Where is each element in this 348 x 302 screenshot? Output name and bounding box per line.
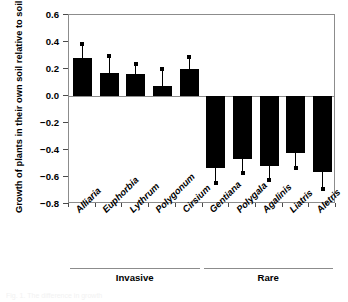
error-bar-cap [134,62,138,66]
error-bar-cap [294,166,298,170]
figure-panel: Growth of plants in their own soil relat… [0,0,348,302]
error-bar-cap [187,55,191,59]
error-bar-cap [107,54,111,58]
y-axis-tick-label: 0.2 [29,63,59,74]
bar [126,74,145,96]
error-bar-cap [267,178,271,182]
x-axis-category-labels: AlliariaEuphorbiaLythrumPolygonumCirsium… [0,203,348,263]
plot-area [68,14,335,203]
error-bar-cap [321,187,325,191]
bar [233,96,252,159]
group-bracket-line [70,268,200,269]
bar [73,58,92,96]
bar [153,86,172,96]
bar-series [69,15,334,202]
error-bar-cap [80,42,84,46]
group-label: Invasive [70,272,200,283]
group-bracket-line [204,268,334,269]
error-bar-cap [241,171,245,175]
group-label: Rare [204,272,334,283]
error-bar-cap [160,67,164,71]
bar [286,96,305,153]
bar [260,96,279,166]
y-axis-tick-label: 0.0 [29,90,59,101]
error-bar-cap [214,181,218,185]
error-bar-line [109,56,110,74]
bar [206,96,225,168]
error-bar-line [82,44,83,58]
y-axis-tick-label: −0.4 [29,144,59,155]
bar [100,73,119,96]
bar [180,69,199,96]
y-axis-tick-label: 0.6 [29,9,59,20]
caption-sliver: Fig. 1. The difference in growth [6,292,186,300]
y-axis-tick-label: 0.4 [29,36,59,47]
bar [313,96,332,172]
y-axis-title: Growth of plants in their own soil relat… [14,3,26,213]
error-bar-line [162,69,163,86]
y-axis-tick-label: −0.2 [29,117,59,128]
y-axis-tick-label: −0.6 [29,171,59,182]
